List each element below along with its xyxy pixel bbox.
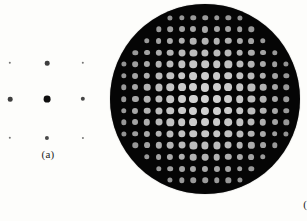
diffraction-spot xyxy=(260,84,267,91)
diffraction-spot xyxy=(224,118,232,126)
diffraction-spot xyxy=(45,61,50,66)
diffraction-spot xyxy=(260,50,266,56)
diffraction-spot xyxy=(283,85,288,90)
diffraction-spot xyxy=(189,83,197,91)
diffraction-spot xyxy=(156,38,162,44)
diffraction-spot xyxy=(144,131,150,137)
diffraction-spot xyxy=(201,130,209,138)
diffraction-spot xyxy=(179,15,184,20)
diffraction-spot xyxy=(225,26,231,32)
diffraction-spot xyxy=(202,166,208,172)
diffraction-spot xyxy=(201,72,209,80)
diffraction-spot xyxy=(166,107,174,115)
diffraction-spot xyxy=(236,49,243,56)
diffraction-spot xyxy=(283,96,289,102)
diffraction-spot xyxy=(214,26,220,32)
diffraction-spot xyxy=(191,15,196,20)
diffraction-spot xyxy=(237,27,243,33)
diffraction-spot xyxy=(248,49,254,55)
diffraction-spot xyxy=(201,49,208,56)
diffraction-spot xyxy=(248,107,255,114)
panel-b-aperture-disk xyxy=(110,4,300,194)
diffraction-spot xyxy=(225,49,232,56)
diffraction-spot xyxy=(236,119,243,126)
diffraction-spot xyxy=(248,154,254,160)
diffraction-spot xyxy=(213,142,220,149)
diffraction-spot xyxy=(226,15,231,20)
diffraction-spot xyxy=(237,178,242,183)
diffraction-spot xyxy=(260,96,267,103)
diffraction-spot xyxy=(179,154,185,160)
diffraction-spot xyxy=(189,72,197,80)
diffraction-spot xyxy=(189,118,197,126)
diffraction-spot xyxy=(236,72,243,79)
diffraction-spot xyxy=(190,38,197,45)
diffraction-spot xyxy=(121,108,126,113)
diffraction-spot xyxy=(225,130,232,137)
diffraction-spot xyxy=(167,38,173,44)
diffraction-spot xyxy=(248,130,255,137)
diffraction-spot xyxy=(167,61,174,68)
panel-a-caption: (a) xyxy=(42,148,55,160)
diffraction-spot xyxy=(237,154,243,160)
diffraction-spot xyxy=(213,130,221,138)
diffraction-spot xyxy=(236,142,243,149)
diffraction-spot xyxy=(224,95,232,103)
diffraction-spot xyxy=(213,38,220,45)
diffraction-spot xyxy=(144,50,150,56)
diffraction-spot xyxy=(190,130,198,138)
diffraction-spot xyxy=(155,72,162,79)
diffraction-spot xyxy=(213,72,221,80)
diffraction-spot xyxy=(155,107,162,114)
diffraction-spot xyxy=(155,119,162,126)
diffraction-spot xyxy=(260,107,267,114)
diffraction-spot xyxy=(144,107,151,114)
diffraction-spot xyxy=(168,178,173,183)
diffraction-spot xyxy=(179,178,184,183)
diffraction-spot xyxy=(224,72,232,80)
diffraction-spot xyxy=(260,73,266,79)
diffraction-spot xyxy=(202,177,208,183)
diffraction-spot xyxy=(224,83,232,91)
diffraction-spot xyxy=(133,50,138,55)
diffraction-spot xyxy=(167,130,174,137)
diffraction-spot xyxy=(236,95,244,103)
diffraction-spot xyxy=(144,154,149,159)
diffraction-spot xyxy=(155,130,162,137)
diffraction-spot xyxy=(202,15,208,21)
diffraction-spot xyxy=(214,15,219,20)
diffraction-spot xyxy=(155,49,161,55)
panel-b: (b) xyxy=(105,0,307,221)
diffraction-spot xyxy=(8,97,13,102)
diffraction-spot xyxy=(190,154,197,161)
diffraction-spot xyxy=(45,136,49,140)
diffraction-spot xyxy=(214,166,220,172)
diffraction-spot xyxy=(225,38,231,44)
diffraction-spot xyxy=(201,107,209,115)
diffraction-spot xyxy=(236,107,244,115)
diffraction-spot xyxy=(121,96,127,102)
diffraction-spot xyxy=(178,49,185,56)
diffraction-spot xyxy=(155,61,162,68)
diffraction-spot xyxy=(225,154,231,160)
diffraction-spot xyxy=(249,27,254,32)
diffraction-spot xyxy=(167,154,173,160)
diffraction-spot xyxy=(168,15,173,20)
diffraction-spot xyxy=(213,154,220,161)
diffraction-spot xyxy=(236,130,243,137)
diffraction-spot xyxy=(144,119,150,125)
diffraction-spot xyxy=(260,142,266,148)
diffraction-spot xyxy=(155,84,162,91)
diffraction-spot xyxy=(132,108,138,114)
diffraction-spot xyxy=(9,62,11,64)
diffraction-spot xyxy=(260,154,265,159)
diffraction-spot xyxy=(121,120,126,125)
diffraction-spot xyxy=(201,60,209,68)
diffraction-spot xyxy=(178,118,186,126)
diffraction-spot xyxy=(82,62,84,64)
diffraction-spot xyxy=(178,72,186,80)
diffraction-spot xyxy=(284,131,289,136)
diffraction-spot xyxy=(213,107,221,115)
diffraction-spot xyxy=(201,142,208,149)
diffraction-spot xyxy=(121,85,126,90)
